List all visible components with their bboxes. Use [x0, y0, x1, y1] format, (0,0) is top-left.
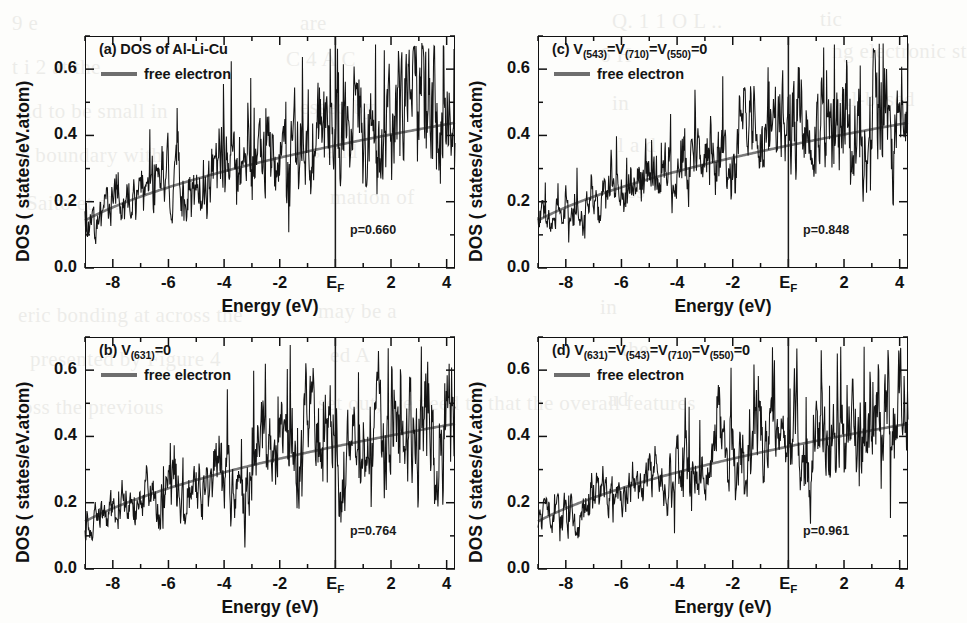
x-tick-label: -4	[647, 574, 707, 593]
legend-d: free electron	[554, 367, 684, 383]
y-tick-label: 0.0	[486, 558, 530, 577]
x-tick-label: -2	[703, 574, 763, 593]
y-tick-label: 0.6	[486, 359, 530, 378]
p-value-label-d: p=0.961	[803, 524, 849, 538]
y-axis-title: DOS ( states/eV.atom)	[466, 382, 487, 563]
x-axis-title: Energy (eV)	[538, 597, 908, 618]
y-tick-label: 0.4	[486, 425, 530, 444]
x-tick-label: EF	[758, 574, 818, 595]
x-tick-label: 4	[870, 574, 930, 593]
x-tick-label: -6	[591, 574, 651, 593]
panel-title-d: (d) V(631)=V(543)=V(710)=V(550)=0	[552, 342, 750, 361]
x-tick-label: 2	[814, 574, 874, 593]
y-tick-label: 0.2	[486, 492, 530, 511]
x-tick-label: -8	[536, 574, 596, 593]
legend-line-swatch-icon	[554, 373, 590, 376]
legend-label: free electron	[597, 367, 684, 383]
